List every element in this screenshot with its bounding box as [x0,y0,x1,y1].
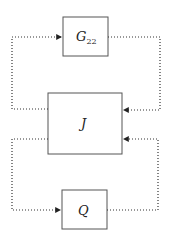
block-q: Q [62,190,107,229]
block-j: J [48,93,122,154]
block-g22: G22 [63,17,108,56]
block-diagram: G22 J Q [0,0,171,239]
block-q-label: Q [78,203,89,218]
